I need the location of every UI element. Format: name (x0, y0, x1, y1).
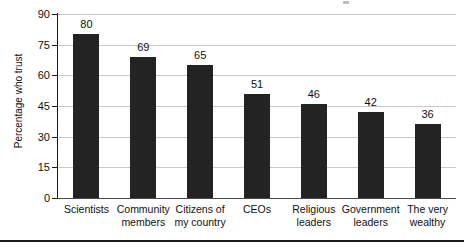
x-axis-category-label: Governmentleaders (338, 203, 403, 229)
bar (73, 34, 99, 198)
x-axis-line (57, 198, 456, 199)
category-label-line: Scientists (54, 203, 119, 216)
bar (415, 124, 441, 198)
y-axis-tick-label: 60 (28, 70, 50, 81)
category-label-line: CEOs (225, 203, 290, 216)
y-axis-tick-label: 15 (28, 162, 50, 173)
category-label-line: members (111, 216, 176, 229)
y-axis-tick-label: 75 (28, 40, 50, 51)
bar-value-label: 46 (289, 89, 339, 100)
x-axis-category-label: Communitymembers (111, 203, 176, 229)
category-label-line: wealthy (395, 216, 460, 229)
bar-value-label: 36 (403, 109, 453, 120)
footer-divider-rule (0, 240, 464, 242)
x-axis-category-label: CEOs (225, 203, 290, 216)
x-axis-category-label: The verywealthy (395, 203, 460, 229)
bar-value-label: 80 (61, 19, 111, 30)
bar (301, 104, 327, 198)
category-label-line: The very (395, 203, 460, 216)
category-label-line: leaders (281, 216, 346, 229)
bar (187, 65, 213, 198)
bar-value-label: 69 (118, 42, 168, 53)
gridline (58, 75, 456, 76)
x-axis-category-label: Citizens ofmy country (168, 203, 233, 229)
x-axis-category-label: Scientists (54, 203, 119, 216)
bar-chart-figure: Percentage who trust 0153045607590 80696… (0, 0, 464, 250)
page-artifact-speck (343, 1, 349, 4)
category-label-line: my country (168, 216, 233, 229)
category-label-line: Community (111, 203, 176, 216)
bar (244, 94, 270, 198)
category-label-line: Citizens of (168, 203, 233, 216)
bar-value-label: 42 (346, 97, 396, 108)
category-label-line: Religious (281, 203, 346, 216)
gridline (58, 14, 456, 15)
y-axis-tick-label: 0 (28, 193, 50, 204)
category-label-line: leaders (338, 216, 403, 229)
bar-value-label: 65 (175, 50, 225, 61)
y-axis-tick-label: 90 (28, 9, 50, 20)
bar-value-label: 51 (232, 79, 282, 90)
y-axis-title: Percentage who trust (14, 36, 24, 166)
bar (358, 112, 384, 198)
y-axis-tick-label: 30 (28, 132, 50, 143)
x-axis-category-label: Religiousleaders (281, 203, 346, 229)
category-label-line: Government (338, 203, 403, 216)
bar (130, 57, 156, 198)
y-axis-tick-label: 45 (28, 101, 50, 112)
